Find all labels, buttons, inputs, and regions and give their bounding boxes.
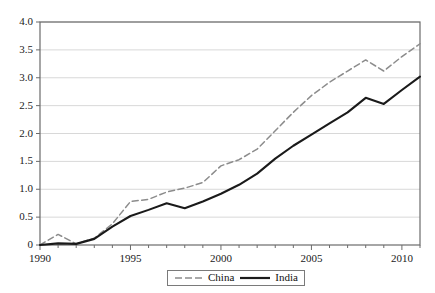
legend-label-china: China [208, 272, 234, 283]
x-tick-label: 2005 [289, 252, 333, 264]
axis-ticks [36, 22, 420, 250]
y-tick-label: 0 [0, 238, 33, 250]
series-line-india [40, 77, 420, 245]
y-tick-label: 3.5 [0, 43, 33, 55]
y-tick-label: 1.5 [0, 154, 33, 166]
y-tick-label: 4.0 [0, 15, 33, 27]
gridlines [40, 22, 420, 217]
solid-line-swatch-icon [239, 273, 271, 283]
dashed-line-swatch-icon [174, 273, 204, 283]
y-tick-label: 2.0 [0, 127, 33, 139]
legend-item-india: India [239, 272, 298, 283]
x-tick-label: 2000 [199, 252, 243, 264]
series-lines [40, 44, 420, 245]
x-tick-label: 1990 [18, 252, 62, 264]
plot-area [0, 0, 435, 293]
x-tick-label: 2010 [380, 252, 424, 264]
x-tick-label: 1995 [108, 252, 152, 264]
line-chart: 00.51.01.52.02.53.03.54.0 19901995200020… [0, 0, 435, 293]
legend-item-china: China [174, 272, 234, 283]
y-tick-label: 3.0 [0, 71, 33, 83]
y-tick-label: 1.0 [0, 182, 33, 194]
y-tick-label: 2.5 [0, 99, 33, 111]
y-tick-label: 0.5 [0, 210, 33, 222]
series-line-china [40, 44, 420, 245]
legend-label-india: India [275, 272, 298, 283]
legend: China India [167, 270, 305, 286]
